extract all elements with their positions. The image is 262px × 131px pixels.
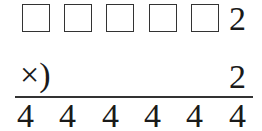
product-digit-5: 4 bbox=[186, 99, 203, 131]
product-digit-4: 4 bbox=[144, 99, 161, 131]
product-digit-2: 4 bbox=[59, 99, 76, 131]
product-digit-3: 4 bbox=[102, 99, 119, 131]
product-digit-6: 4 bbox=[229, 99, 246, 131]
multiplier-digit: 2 bbox=[229, 60, 246, 94]
product-divider-line bbox=[15, 96, 253, 98]
blank-digit-box-3[interactable] bbox=[106, 4, 134, 32]
multiplicand-last-digit: 2 bbox=[229, 2, 246, 36]
multiply-operator: ×) bbox=[20, 58, 51, 92]
blank-digit-box-2[interactable] bbox=[64, 4, 92, 32]
blank-digit-box-1[interactable] bbox=[22, 4, 50, 32]
blank-digit-box-5[interactable] bbox=[191, 4, 219, 32]
product-digit-1: 4 bbox=[17, 99, 34, 131]
blank-digit-box-4[interactable] bbox=[149, 4, 177, 32]
